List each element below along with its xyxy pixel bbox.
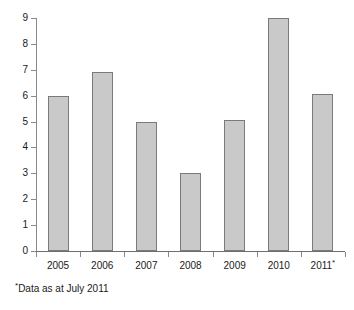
x-tick-label: 2011* [295, 260, 351, 271]
x-label-asterisk-icon: * [332, 258, 335, 267]
bar [48, 96, 69, 251]
y-tick-label: 9 [6, 13, 28, 23]
y-tick-label: 8 [6, 39, 28, 49]
bar [224, 120, 245, 251]
y-tick-label: 4 [6, 142, 28, 152]
plot-area [36, 18, 345, 251]
x-tick-mark [36, 252, 37, 257]
footnote-text: Data as at July 2011 [18, 283, 108, 294]
x-tick-mark [213, 252, 214, 257]
x-tick-mark [168, 252, 169, 257]
y-tick-label: 7 [6, 65, 28, 75]
x-tick-mark [124, 252, 125, 257]
bar [180, 173, 201, 251]
y-tick-label: 3 [6, 168, 28, 178]
y-tick-label: 1 [6, 220, 28, 230]
x-tick-mark [80, 252, 81, 257]
x-tick-mark [301, 252, 302, 257]
y-tick-label: 0 [6, 246, 28, 256]
bar-chart: 0123456789 2005200620072008200920102011*… [0, 0, 354, 310]
y-tick-label: 6 [6, 91, 28, 101]
x-axis-line [36, 251, 345, 252]
bar [268, 18, 289, 251]
chart-footnote: *Data as at July 2011 [15, 283, 109, 295]
y-tick-label: 5 [6, 117, 28, 127]
bar [136, 122, 157, 251]
x-tick-mark [345, 252, 346, 257]
bar [92, 72, 113, 251]
y-tick-label: 2 [6, 194, 28, 204]
bar [312, 94, 333, 251]
x-tick-mark [257, 252, 258, 257]
